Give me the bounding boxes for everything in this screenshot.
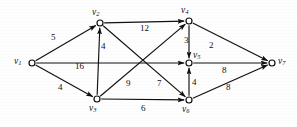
node-label-subscript-v7: 7 [282, 59, 285, 66]
graph-edge-v2-v6 [103, 26, 185, 97]
node-label-subscript-v5: 5 [197, 53, 200, 60]
graph-figure: 541641279632488v1v2v3v4v5v6v7 [0, 0, 297, 127]
node-label-subscript-v4: 4 [185, 8, 188, 15]
node-label-subscript-v2: 2 [96, 10, 99, 17]
edge-weight-v3-v6: 6 [141, 104, 146, 113]
graph-node-label-v2: v2 [92, 8, 99, 18]
graph-node-v6 [186, 97, 192, 103]
graph-edge-v4-v7 [193, 23, 268, 61]
node-label-subscript-v3: 3 [93, 106, 96, 113]
nodes-group [29, 18, 275, 103]
graph-edge-v3-v2 [97, 28, 100, 95]
graph-node-label-v7: v7 [278, 57, 285, 67]
graph-node-label-v5: v5 [193, 51, 200, 61]
edge-weight-v1-v5: 16 [75, 62, 84, 71]
graph-node-v1 [29, 60, 35, 66]
node-label-subscript-v1: 1 [18, 59, 21, 66]
edge-weight-v3-v4: 9 [126, 79, 131, 88]
edge-weight-v6-v7: 8 [226, 83, 231, 92]
graph-node-v3 [94, 96, 100, 102]
edge-weight-v1-v2: 5 [51, 33, 56, 42]
graph-node-label-v3: v3 [89, 104, 96, 114]
graph-edge-v1-v2 [36, 25, 96, 60]
graph-node-label-v6: v6 [182, 105, 189, 115]
edge-weight-v3-v2: 4 [101, 42, 106, 51]
graph-node-v2 [97, 20, 103, 26]
edges-group [36, 21, 268, 100]
graph-edge-v1-v3 [36, 65, 93, 97]
edge-weight-v1-v3: 4 [58, 83, 63, 92]
edge-weight-v2-v6: 7 [157, 79, 162, 88]
edge-weight-v6-v5: 4 [192, 78, 197, 87]
graph-edge-v3-v6 [101, 99, 184, 100]
graph-node-v4 [186, 18, 192, 24]
edge-weight-v4-v7: 2 [209, 41, 214, 50]
edge-weight-v2-v4: 12 [140, 24, 149, 33]
graph-node-v5 [186, 60, 192, 66]
graph-node-v7 [269, 60, 275, 66]
graph-node-label-v4: v4 [181, 6, 188, 16]
node-label-subscript-v6: 6 [186, 107, 189, 114]
graph-canvas [0, 0, 297, 127]
edge-weight-v4-v5: 3 [184, 36, 189, 45]
graph-node-label-v1: v1 [14, 57, 21, 67]
edge-weight-v5-v7: 8 [222, 66, 227, 75]
